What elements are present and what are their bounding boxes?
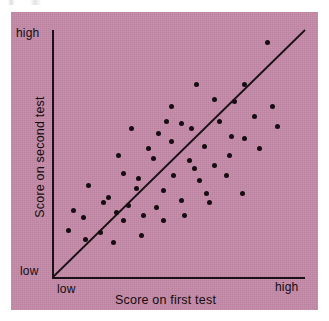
data-point [189, 126, 194, 131]
data-point [154, 205, 159, 210]
data-point [121, 218, 126, 223]
x-axis-high-label: high [275, 280, 299, 294]
data-point [202, 144, 207, 149]
x-axis-low-label: low [57, 282, 76, 296]
cropped-text-sliver [8, 0, 68, 5]
data-point [171, 173, 176, 178]
data-point [232, 99, 237, 104]
y-axis-line [52, 30, 54, 279]
data-point [224, 173, 229, 178]
data-point [212, 163, 217, 168]
data-point [275, 124, 280, 129]
diagonal-reference-line [11, 12, 318, 310]
data-point [192, 166, 197, 171]
x-axis-title: Score on first test [115, 293, 216, 307]
data-point [207, 200, 212, 205]
data-point [257, 146, 262, 151]
data-point [242, 136, 247, 141]
data-point [240, 191, 245, 196]
data-point [111, 240, 116, 245]
data-point [197, 178, 202, 183]
data-point [141, 213, 146, 218]
data-point [169, 139, 174, 144]
data-point [116, 153, 121, 158]
chart-panel: high low low high Score on first test Sc… [11, 12, 318, 310]
data-point [217, 119, 222, 124]
data-point [252, 114, 257, 119]
data-point [265, 40, 270, 45]
data-point [194, 82, 199, 87]
data-point [242, 82, 247, 87]
scatter-plot: high low low high Score on first test Sc… [11, 12, 318, 310]
data-point [126, 203, 131, 208]
x-axis-line [52, 277, 305, 279]
data-point [270, 104, 275, 109]
data-point [161, 218, 166, 223]
data-point [156, 131, 161, 136]
data-point [98, 230, 103, 235]
data-point [66, 228, 71, 233]
data-point [204, 191, 209, 196]
data-point [101, 200, 106, 205]
figure-page: high low low high Score on first test Sc… [0, 0, 329, 321]
data-point [81, 215, 86, 220]
data-point [134, 186, 139, 191]
y-axis-high-label: high [16, 26, 40, 40]
data-point [179, 121, 184, 126]
data-point [182, 213, 187, 218]
data-point [212, 97, 217, 102]
data-point [139, 233, 144, 238]
data-point [151, 156, 156, 161]
data-point [179, 198, 184, 203]
data-point [129, 126, 134, 131]
data-point [114, 210, 119, 215]
data-point [164, 119, 169, 124]
y-axis-title: Score on second test [33, 82, 47, 232]
data-point [161, 188, 166, 193]
data-point [229, 134, 234, 139]
data-point [187, 158, 192, 163]
data-point [86, 183, 91, 188]
data-point [227, 153, 232, 158]
data-point [121, 171, 126, 176]
data-point [71, 208, 76, 213]
y-axis-low-label: low [20, 264, 39, 278]
data-point [169, 104, 174, 109]
data-point [136, 176, 141, 181]
data-point [83, 237, 88, 242]
data-point [106, 195, 111, 200]
data-point [146, 146, 151, 151]
